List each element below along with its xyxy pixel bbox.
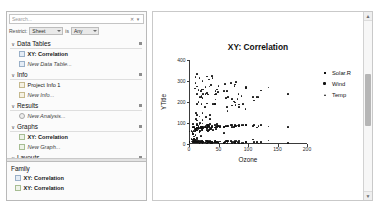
legend-entry[interactable]: Solar.R — [321, 67, 351, 78]
legend-label: Wind — [332, 81, 345, 87]
group-divider — [10, 110, 142, 111]
data-point — [196, 120, 198, 122]
restrict-scope-dropdown[interactable]: Sheet — [29, 27, 63, 35]
data-point — [242, 103, 244, 105]
data-point — [268, 126, 270, 128]
data-point — [260, 90, 262, 92]
tree-item[interactable]: XY: Correlation — [7, 132, 146, 142]
tree-group-data-tables[interactable]: ∨Data Tables — [7, 38, 146, 49]
tree-item[interactable]: XY: Correlation — [7, 49, 146, 59]
search-options-icon[interactable]: ▾ — [135, 15, 141, 23]
tree-group-label: Graphs — [17, 123, 38, 130]
family-panel-title: Family — [7, 164, 146, 173]
data-point — [196, 130, 198, 132]
data-point — [200, 135, 202, 137]
x-tick-label: 200 — [303, 146, 311, 152]
group-menu-icon[interactable] — [139, 125, 142, 128]
data-point — [209, 118, 211, 120]
data-point — [227, 96, 229, 98]
data-point — [227, 110, 229, 112]
restrict-filter-dropdown[interactable]: Any — [71, 27, 99, 35]
tree-item[interactable]: New Info... — [7, 90, 146, 100]
group-menu-icon[interactable] — [139, 73, 142, 76]
tree-item[interactable]: New Analysis... — [7, 111, 146, 121]
scroll-down-icon[interactable]: ▼ — [364, 191, 372, 200]
family-list-item[interactable]: XY: Correlation — [7, 173, 146, 183]
table-icon — [19, 51, 25, 57]
family-panel: Family XY: CorrelationXY: Correlation — [7, 161, 146, 200]
data-point — [260, 141, 262, 143]
data-point — [207, 94, 209, 96]
y-tick-label: 400 — [177, 57, 185, 63]
chevron-down-icon[interactable]: ∨ — [10, 72, 16, 78]
data-point — [196, 93, 198, 95]
data-point — [234, 124, 236, 126]
group-menu-icon[interactable] — [139, 42, 142, 45]
data-point — [238, 125, 240, 127]
data-point — [242, 142, 244, 144]
data-point — [200, 127, 202, 129]
data-point — [196, 124, 198, 126]
data-point — [238, 93, 240, 95]
new-table-icon — [19, 61, 25, 67]
legend-entry[interactable]: Wind — [321, 78, 351, 89]
data-point — [195, 82, 197, 84]
y-tick-label: 200 — [177, 99, 185, 105]
data-point — [287, 93, 289, 95]
data-point — [216, 89, 218, 91]
group-divider — [10, 48, 142, 49]
scroll-up-icon[interactable]: ▲ — [364, 12, 372, 21]
data-point — [205, 86, 207, 88]
legend-entry[interactable]: Temp — [321, 89, 351, 100]
scrollbar-thumb[interactable] — [365, 74, 371, 126]
data-point — [245, 108, 247, 110]
restrict-scope-value: Sheet — [32, 28, 45, 34]
tree-item-label: XY: Correlation — [28, 134, 68, 140]
tree-group-graphs[interactable]: ∨Graphs — [7, 121, 146, 132]
data-point — [196, 127, 198, 129]
data-point — [209, 114, 211, 116]
data-point — [210, 128, 212, 130]
data-point — [202, 112, 204, 114]
group-menu-icon[interactable] — [139, 156, 142, 158]
data-point — [210, 84, 212, 86]
tree-item[interactable]: New Graph... — [7, 142, 146, 152]
data-point — [218, 85, 220, 87]
tree-item[interactable]: New Data Table... — [7, 59, 146, 69]
tree-group-info[interactable]: ∨Info — [7, 69, 146, 80]
data-point — [199, 116, 201, 118]
x-axis-label: Ozone — [189, 156, 307, 163]
project-explorer-panel: Search... ✕ ▾ Restrict: Sheet is Any ∨Da… — [6, 11, 147, 201]
graph-vertical-scrollbar[interactable]: ▲ ▼ — [363, 12, 372, 200]
data-point — [245, 86, 247, 88]
chevron-down-icon[interactable]: ∨ — [10, 103, 16, 109]
data-point — [242, 124, 244, 126]
chevron-down-icon[interactable]: ∨ — [10, 41, 16, 47]
plot-area: XY: Correlation 010020030040005010015020… — [153, 12, 363, 200]
data-point — [202, 80, 204, 82]
data-point — [230, 82, 232, 84]
y-axis-label: YTitle — [160, 94, 167, 110]
data-point — [224, 83, 226, 85]
family-list-item[interactable]: XY: Correlation — [7, 183, 146, 193]
y-tick — [187, 60, 190, 61]
data-point — [238, 106, 240, 108]
tree-item[interactable]: Project Info 1 — [7, 80, 146, 90]
family-list[interactable]: XY: CorrelationXY: Correlation — [7, 173, 146, 193]
project-tree[interactable]: ∨Data TablesXY: CorrelationNew Data Tabl… — [7, 37, 146, 158]
tree-group-layouts[interactable]: ∨Layouts — [7, 152, 146, 158]
data-point — [252, 96, 254, 98]
data-point — [202, 93, 204, 95]
data-point — [206, 76, 208, 78]
data-point — [215, 93, 217, 95]
data-point — [195, 112, 197, 114]
search-input[interactable]: Search... ✕ ▾ — [9, 14, 144, 24]
chevron-down-icon[interactable]: ∨ — [10, 155, 16, 159]
tree-group-results[interactable]: ∨Results — [7, 100, 146, 111]
tree-group-label: Results — [17, 102, 38, 109]
data-point — [202, 123, 204, 125]
group-menu-icon[interactable] — [139, 104, 142, 107]
chevron-down-icon[interactable]: ∨ — [10, 124, 16, 130]
data-point — [214, 103, 216, 105]
data-point — [212, 77, 214, 79]
